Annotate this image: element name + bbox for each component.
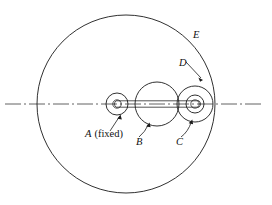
label-a-qualifier: (fixed) [94, 128, 123, 140]
leader-line-d [186, 62, 201, 78]
label-d: D [178, 57, 187, 68]
diagram-canvas: A(fixed) B C D E [0, 0, 272, 205]
label-a-letter: A [84, 128, 92, 139]
label-e: E [192, 29, 200, 40]
label-c: C [176, 136, 184, 147]
label-a: A(fixed) [84, 128, 123, 140]
diagram-figure: A(fixed) B C D E [0, 0, 272, 205]
leader-arrowhead-c [189, 119, 193, 124]
leader-line-c [181, 122, 192, 138]
label-b: B [136, 136, 143, 147]
